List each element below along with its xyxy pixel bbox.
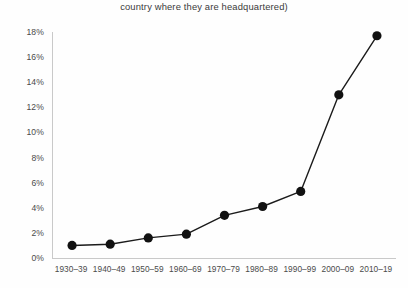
data-point-marker	[258, 202, 267, 211]
series-line-chart	[45, 24, 404, 266]
y-axis-tick-label: 16%	[0, 52, 44, 62]
data-point-marker	[144, 233, 153, 242]
y-axis-tick-label: 2%	[0, 228, 44, 238]
y-axis-tick-label: 4%	[0, 203, 44, 213]
chart-title: country where they are headquartered)	[0, 1, 408, 13]
y-axis-tick-label: 8%	[0, 153, 44, 163]
y-axis-tick-label: 0%	[0, 253, 44, 263]
chart-figure: country where they are headquartered) 0%…	[0, 0, 408, 288]
data-point-marker	[220, 211, 229, 220]
y-axis-tick-label: 12%	[0, 102, 44, 112]
plot-area	[52, 32, 396, 259]
chart-title-block: country where they are headquartered)	[0, 0, 408, 13]
x-axis-tick-label: 1960–69	[169, 264, 202, 274]
data-point-marker	[334, 90, 343, 99]
data-point-marker	[67, 241, 76, 250]
y-axis: 0%2%4%6%8%10%12%14%16%18%	[0, 32, 48, 258]
x-axis-tick-label: 1970–79	[207, 264, 240, 274]
data-point-marker	[106, 240, 115, 249]
data-point-marker	[182, 230, 191, 239]
x-axis-tick-label: 1950–59	[131, 264, 164, 274]
y-axis-tick-label: 10%	[0, 127, 44, 137]
x-axis-tick-label: 1990–99	[283, 264, 316, 274]
y-axis-tick-label: 6%	[0, 178, 44, 188]
data-point-marker	[372, 31, 381, 40]
x-axis-tick-label: 1980–89	[245, 264, 278, 274]
x-axis-tick-label: 1940–49	[93, 264, 126, 274]
x-axis-tick-label: 2000–09	[322, 264, 355, 274]
y-axis-tick-label: 18%	[0, 27, 44, 37]
data-point-marker	[296, 187, 305, 196]
y-axis-tick-label: 14%	[0, 77, 44, 87]
x-axis: 1930–391940–491950–591960–691970–791980–…	[52, 264, 395, 280]
x-axis-tick-label: 2010–19	[360, 264, 393, 274]
x-axis-tick-label: 1930–39	[55, 264, 88, 274]
